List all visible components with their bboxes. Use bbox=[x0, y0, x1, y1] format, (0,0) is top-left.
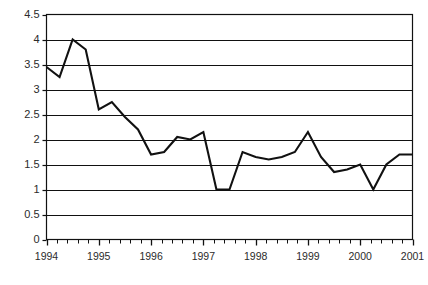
y-axis-tick-label: 3.5 bbox=[24, 59, 39, 70]
data-series-line bbox=[47, 40, 413, 190]
x-axis-tick-label: 1997 bbox=[183, 251, 223, 262]
x-axis-tick-label: 2000 bbox=[340, 251, 380, 262]
y-axis-tick-label: 1 bbox=[33, 184, 39, 195]
y-axis-tick-label: 0.5 bbox=[24, 209, 39, 220]
x-tick-marks bbox=[48, 240, 414, 246]
x-axis-tick-label: 2001 bbox=[393, 251, 428, 262]
y-axis-tick-label: 0 bbox=[33, 234, 39, 245]
y-axis-tick-label: 4.5 bbox=[24, 9, 39, 20]
y-axis-tick-label: 3 bbox=[33, 84, 39, 95]
x-axis-tick-label: 1994 bbox=[27, 251, 67, 262]
y-axis-tick-label: 4 bbox=[33, 34, 39, 45]
x-axis-tick-label: 1996 bbox=[131, 251, 171, 262]
y-axis-tick-label: 2 bbox=[33, 134, 39, 145]
x-axis-tick-label: 1999 bbox=[288, 251, 328, 262]
line-chart: 00.511.522.533.544.5 1994199519961997199… bbox=[0, 0, 428, 285]
plot-area bbox=[0, 0, 428, 285]
y-axis-tick-label: 2.5 bbox=[24, 109, 39, 120]
x-axis-tick-label: 1998 bbox=[236, 251, 276, 262]
plot-frame bbox=[47, 15, 413, 240]
x-axis-tick-label: 1995 bbox=[79, 251, 119, 262]
y-axis-tick-label: 1.5 bbox=[24, 159, 39, 170]
